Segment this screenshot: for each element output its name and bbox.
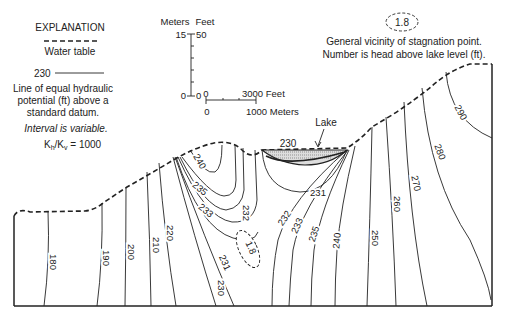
horizontal-scale-meters-start: 0 — [204, 106, 209, 117]
stagnation-point-legend: 1.8 General vicinity of stagnation point… — [323, 13, 486, 60]
contour-232-loop — [176, 157, 258, 240]
label-231-left: 231 — [217, 253, 234, 272]
interval-note: Interval is variable. — [24, 123, 107, 134]
contour-230 — [173, 157, 216, 306]
label-240-right: 240 — [330, 232, 342, 249]
label-200: 200 — [126, 244, 137, 260]
label-270: 270 — [409, 174, 423, 192]
conductivity-ratio: Kh/Kv = 1000 — [44, 139, 102, 151]
lake: Lake 230 — [262, 117, 347, 165]
label-235-right: 235 — [306, 225, 321, 243]
stagnation-legend-desc-1: General vicinity of stagnation point. — [326, 36, 482, 47]
vertical-scale-feet-top: 50 — [196, 29, 207, 40]
contour-250 — [367, 127, 372, 306]
label-232-left: 232 — [241, 205, 252, 221]
label-210: 210 — [151, 237, 162, 253]
lake-level-label: 230 — [280, 138, 297, 149]
vertical-scale-meters-top: 15 — [175, 29, 186, 40]
contour-desc-line-3: standard datum. — [27, 107, 99, 118]
horizontal-scale-bar: 0 3000 Feet 0 1000 Meters — [203, 88, 299, 117]
label-190: 190 — [101, 250, 112, 266]
horizontal-scale-meters-end: 1000 Meters — [246, 106, 299, 117]
label-250: 250 — [370, 230, 381, 246]
label-233-right: 233 — [288, 216, 305, 235]
explanation-title: EXPLANATION — [35, 22, 104, 33]
contour-240-right — [335, 146, 355, 306]
contour-290 — [446, 72, 492, 138]
contour-270 — [404, 102, 427, 306]
label-290: 290 — [453, 103, 470, 122]
water-table-label: Water table — [45, 46, 96, 57]
contour-sample-value: 230 — [34, 68, 51, 79]
label-231-lake: 231 — [310, 187, 326, 198]
lake-label: Lake — [315, 117, 337, 128]
label-180: 180 — [48, 254, 59, 270]
label-220: 220 — [165, 225, 176, 241]
stagnation-legend-value: 1.8 — [395, 17, 409, 28]
label-280: 280 — [432, 142, 448, 161]
vertical-scale-meters-bottom: 0 — [181, 90, 186, 101]
label-260: 260 — [392, 196, 403, 212]
vertical-scale-meters-unit: Meters — [160, 16, 189, 27]
contour-233-left — [180, 148, 244, 210]
vertical-scale-feet-unit: Feet — [195, 16, 214, 27]
explanation-legend: EXPLANATION Water table 230 Line of equa… — [13, 22, 113, 151]
label-230: 230 — [216, 280, 227, 296]
contour-labels: 180 190 200 210 220 230 231 233 235 240 … — [48, 103, 470, 296]
contour-desc-line-1: Line of equal hydraulic — [13, 83, 113, 94]
cross-section-diagram: EXPLANATION Water table 230 Line of equa… — [0, 0, 509, 321]
stagnation-legend-desc-2: Number is head above lake level (ft). — [323, 49, 486, 60]
contour-210 — [147, 172, 151, 306]
horizontal-scale-feet-end: 3000 Feet — [242, 88, 285, 99]
contour-200 — [125, 188, 126, 306]
lake-arrow — [318, 129, 324, 146]
label-240-left: 240 — [191, 152, 208, 171]
contour-280 — [422, 88, 491, 300]
contour-180 — [44, 211, 49, 306]
contour-desc-line-2: potential (ft) above a — [17, 95, 109, 106]
vertical-scale-feet-bottom: 0 — [196, 90, 201, 101]
